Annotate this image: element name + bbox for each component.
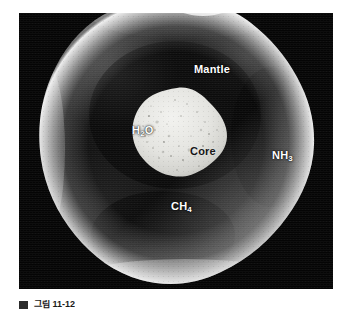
label-ch4-sub: 4 <box>187 205 192 214</box>
label-h2o: H2O <box>132 125 154 136</box>
label-ch4: CH4 <box>171 201 192 212</box>
label-nh3: NH3 <box>272 150 293 161</box>
image-panel: Mantle H2O Core NH3 CH4 <box>19 13 333 289</box>
caption-marker-icon <box>19 301 28 309</box>
label-h2o-main: H <box>132 124 140 136</box>
figure-container: Mantle H2O Core NH3 CH4 그림 11-12 <box>0 0 350 309</box>
label-core: Core <box>190 146 216 157</box>
caption-text: 그림 11-12 <box>34 300 75 309</box>
label-nh3-sub: 3 <box>288 154 293 163</box>
label-ch4-main: CH <box>171 200 187 212</box>
figure-caption: 그림 11-12 <box>19 300 75 309</box>
label-h2o-sub: 2 <box>140 129 145 138</box>
label-h2o-tail: O <box>145 124 154 136</box>
label-nh3-main: NH <box>272 149 288 161</box>
label-mantle-text: Mantle <box>194 63 230 75</box>
label-mantle: Mantle <box>194 64 230 75</box>
label-core-text: Core <box>190 145 216 157</box>
